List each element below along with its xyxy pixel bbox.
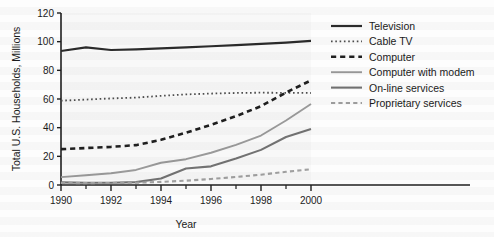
legend-label: Computer with modem: [369, 66, 475, 78]
y-tick-label: 20: [43, 151, 55, 162]
series-line-computer: [61, 80, 311, 149]
x-tick-label: 1990: [50, 195, 73, 206]
y-axis-title: Total U.S. Households, Millions: [10, 27, 22, 172]
legend-label: Cable TV: [369, 35, 413, 47]
x-tick-label: 1996: [200, 195, 223, 206]
chart-figure: 020406080100120 199019921994199619982000…: [0, 0, 494, 237]
y-tick-label: 40: [43, 122, 55, 133]
chart-legend: TelevisionCable TVComputerComputer with …: [331, 20, 475, 109]
y-tick-label: 0: [48, 180, 54, 191]
legend-label: Computer: [369, 51, 416, 63]
y-tick-label: 60: [43, 94, 55, 105]
line-chart: 020406080100120 199019921994199619982000…: [0, 0, 494, 237]
x-tick-label: 1998: [250, 195, 273, 206]
x-tick-label: 2000: [300, 195, 323, 206]
y-tick-label: 120: [37, 8, 54, 19]
y-tick-label: 100: [37, 36, 54, 47]
y-tick-label: 80: [43, 65, 55, 76]
series-line-television: [61, 41, 311, 51]
x-axis-title: Year: [175, 218, 197, 230]
x-tick-label: 1994: [150, 195, 173, 206]
x-axis-tick-labels: 199019921994199619982000: [50, 195, 323, 206]
legend-label: Television: [369, 20, 415, 32]
legend-label: On-line services: [369, 82, 444, 94]
y-axis-tick-labels: 020406080100120: [37, 8, 54, 191]
x-tick-label: 1992: [100, 195, 123, 206]
legend-label: Proprietary services: [369, 97, 462, 109]
series-line-computer-with-modem: [61, 104, 311, 177]
series-line-proprietary-services: [61, 169, 311, 183]
data-series-group: [61, 41, 311, 183]
